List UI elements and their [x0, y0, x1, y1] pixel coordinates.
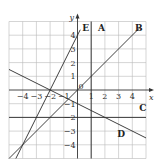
x-tick-label: 3 — [116, 92, 121, 101]
line-labels: ABCDE — [82, 23, 146, 138]
x-tick-label: 1 — [89, 92, 94, 101]
line-label-b: B — [135, 23, 143, 33]
x-tick-label: −4 — [17, 92, 29, 101]
y-tick-label: 3 — [70, 45, 75, 54]
x-axis-arrow-icon — [149, 88, 154, 92]
y-tick-label: 1 — [70, 72, 75, 81]
x-tick-label: −3 — [31, 92, 43, 101]
y-tick-label: −4 — [64, 141, 76, 150]
y-tick-label: −1 — [64, 100, 76, 109]
coordinate-chart: xy −4−3−2−112344321−1−2−3−40 ABCDE — [0, 0, 157, 168]
x-tick-label: −2 — [44, 92, 56, 101]
y-axis-arrow-icon — [76, 14, 80, 19]
x-tick-label: 2 — [102, 92, 107, 101]
line-label-d: D — [117, 129, 125, 139]
line-label-c: C — [139, 103, 146, 113]
y-tick-label: −3 — [64, 127, 76, 136]
y-tick-label: −2 — [64, 113, 76, 122]
line-label-a: A — [97, 23, 106, 33]
y-tick-label: 2 — [70, 59, 75, 68]
x-axis-label: x — [149, 93, 154, 102]
x-tick-label: 4 — [130, 92, 135, 101]
origin-label: 0 — [79, 82, 84, 91]
line-label-e: E — [82, 23, 89, 33]
y-tick-label: 4 — [70, 31, 75, 40]
y-axis-label: y — [69, 13, 75, 22]
